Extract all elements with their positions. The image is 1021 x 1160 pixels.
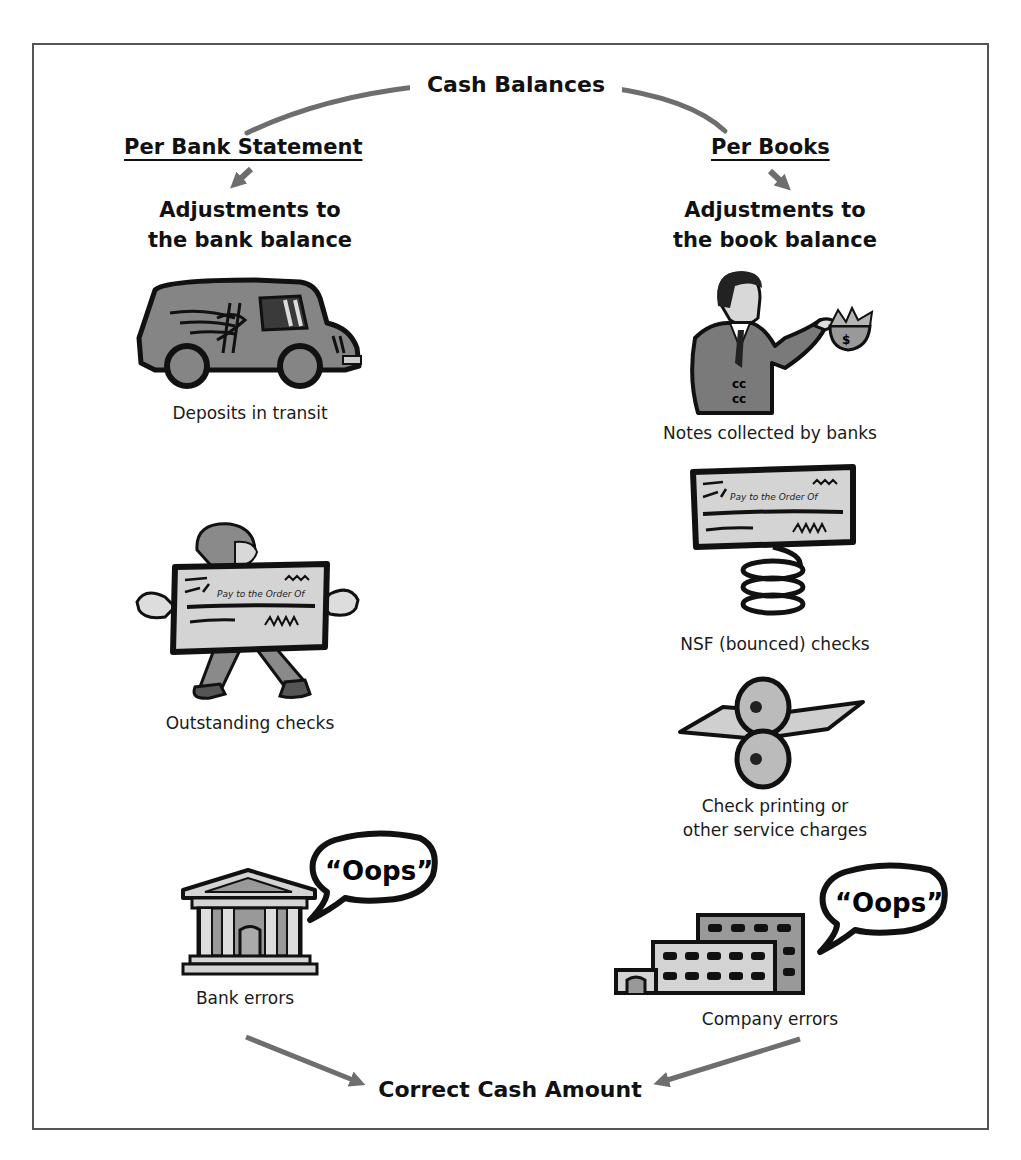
item-check-printing-line2: other service charges (650, 818, 900, 842)
armored-truck-icon (135, 278, 365, 393)
speech-bubble-bank: “Oops” (305, 830, 440, 925)
arc-left (247, 87, 415, 133)
arc-right (604, 87, 725, 131)
speech-bubble-company: “Oops” (815, 862, 950, 957)
check-text-nsf: Pay to the Order Of (730, 492, 819, 502)
correct-cash-amount: Correct Cash Amount (350, 1077, 670, 1102)
item-deposits-in-transit: Deposits in transit (120, 401, 380, 425)
bank-adjustments-heading: Adjustments to the bank balance (120, 195, 380, 255)
heading-per-books: Per Books (711, 135, 830, 159)
check-text: Pay to the Order Of (217, 589, 306, 599)
item-check-printing-line1: Check printing or (650, 794, 900, 818)
item-notes-collected: Notes collected by banks (640, 421, 900, 445)
printing-rollers-icon (678, 677, 868, 787)
person-holding-check-icon: Pay to the Order Of (135, 522, 360, 702)
bank-adjustments-line2: the bank balance (120, 225, 380, 255)
book-adjustments-heading: Adjustments to the book balance (645, 195, 905, 255)
businessman-with-money-bag-icon: cc cc $ (680, 268, 880, 416)
item-company-errors: Company errors (650, 1007, 890, 1031)
check-on-spring-icon: Pay to the Order Of (688, 462, 858, 622)
svg-text:cc: cc (732, 377, 746, 391)
bank-adjustments-line1: Adjustments to (120, 195, 380, 225)
item-check-printing: Check printing or other service charges (650, 794, 900, 842)
diagram-title: Cash Balances (410, 72, 622, 97)
item-nsf-checks: NSF (bounced) checks (650, 632, 900, 656)
bank-building-icon (180, 868, 320, 978)
heading-per-bank-statement: Per Bank Statement (124, 135, 362, 159)
oops-text-bank: “Oops” (325, 856, 433, 886)
book-adjustments-line2: the book balance (645, 225, 905, 255)
book-adjustments-line1: Adjustments to (645, 195, 905, 225)
svg-text:$: $ (842, 333, 850, 347)
oops-text-company: “Oops” (835, 888, 943, 918)
svg-text:cc: cc (732, 392, 746, 406)
office-building-icon (613, 912, 808, 997)
item-bank-errors: Bank errors (120, 986, 370, 1010)
item-outstanding-checks: Outstanding checks (120, 711, 380, 735)
